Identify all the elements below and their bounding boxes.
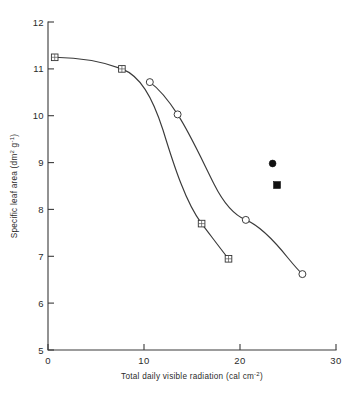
x-tick-label: 0 — [45, 355, 51, 366]
chart-figure: 12 11 10 9 8 7 6 5 0 10 20 30 Total dail… — [0, 0, 360, 399]
y-axis-title: Specific leaf area (dm2 g-1) — [9, 134, 19, 238]
y-axis-ticks — [48, 22, 54, 350]
marker-filled-circle — [269, 160, 276, 167]
x-axis-tick-labels: 0 10 20 30 — [45, 355, 342, 366]
y-tick-label: 10 — [33, 110, 44, 121]
series-2-markers — [146, 79, 306, 278]
marker-open-square — [119, 66, 126, 73]
marker-open-circle — [174, 111, 181, 118]
y-axis-tick-labels: 12 11 10 9 8 7 6 5 — [33, 17, 44, 356]
x-tick-label: 20 — [234, 355, 245, 366]
y-tick-label: 5 — [38, 345, 44, 356]
y-tick-label: 6 — [38, 298, 44, 309]
marker-open-square — [198, 220, 205, 227]
series-line-open-circle — [150, 82, 303, 274]
x-axis-ticks — [48, 344, 336, 350]
y-tick-label: 8 — [38, 204, 44, 215]
y-tick-label: 11 — [33, 63, 44, 74]
marker-open-square — [225, 256, 232, 263]
marker-open-square — [51, 54, 58, 61]
scatter-line-plot: 12 11 10 9 8 7 6 5 0 10 20 30 Total dail… — [0, 0, 360, 399]
marker-open-circle — [146, 79, 153, 86]
marker-open-circle — [242, 216, 249, 223]
axis-lines — [48, 22, 336, 350]
x-tick-label: 30 — [330, 355, 341, 366]
marker-open-circle — [299, 271, 306, 278]
y-tick-label: 12 — [33, 17, 44, 28]
x-axis-title: Total daily visible radiation (cal cm-2) — [121, 371, 263, 381]
y-tick-label: 9 — [38, 157, 44, 168]
y-tick-label: 7 — [38, 251, 44, 262]
x-tick-label: 10 — [138, 355, 149, 366]
marker-filled-square — [274, 182, 281, 189]
series-line-open-square — [55, 57, 229, 258]
